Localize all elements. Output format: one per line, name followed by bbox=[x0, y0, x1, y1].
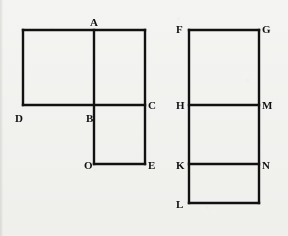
vertex-label-a: A bbox=[90, 17, 98, 28]
vertex-label-k: K bbox=[176, 160, 185, 171]
right-figure-lines bbox=[189, 30, 259, 203]
vertex-label-o: O bbox=[84, 160, 93, 171]
vertex-label-b: B bbox=[86, 113, 93, 124]
vertex-label-l: L bbox=[176, 199, 183, 210]
vertex-label-f: F bbox=[176, 24, 183, 35]
vertex-label-m: M bbox=[262, 100, 272, 111]
left-figure-lines bbox=[23, 30, 145, 164]
vertex-label-h: H bbox=[176, 100, 185, 111]
diagram-canvas: ADBCOE FGHMKNL bbox=[0, 0, 288, 236]
vertex-label-c: C bbox=[148, 100, 156, 111]
vertex-label-e: E bbox=[148, 160, 155, 171]
vertex-label-d: D bbox=[15, 113, 23, 124]
vertex-label-g: G bbox=[262, 24, 271, 35]
geometry-figures bbox=[0, 0, 288, 236]
vertex-label-n: N bbox=[262, 160, 270, 171]
